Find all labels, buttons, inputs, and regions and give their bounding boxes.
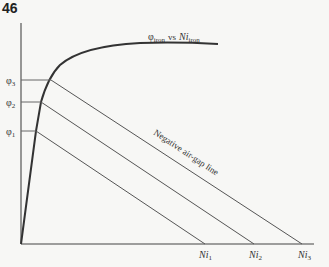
y-label-phi3: φ3 [6,75,16,88]
y-label-phi2: φ2 [6,97,16,110]
air-gap-line-2 [41,102,254,244]
x-label-ni2: Ni2 [248,249,262,262]
air-gap-line-3 [51,80,302,244]
magnetization-curve [21,43,218,244]
magnetization-diagram: φironvsNiiron φ3 φ2 φ1 Ni1 Ni2 Ni3 Negat… [0,0,329,267]
y-label-phi1: φ1 [6,126,16,139]
x-label-ni1: Ni1 [198,249,212,262]
x-label-ni3: Ni3 [297,249,311,262]
